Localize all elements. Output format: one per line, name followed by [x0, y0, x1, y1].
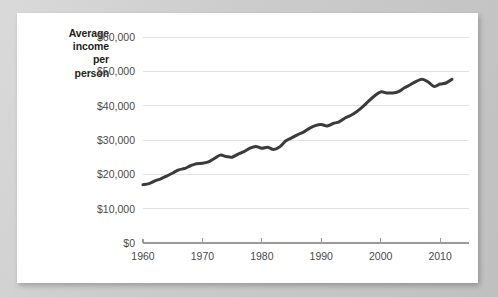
- x-axis-tick-label: 2010: [428, 250, 452, 262]
- x-axis-tickmarks: [202, 238, 440, 243]
- x-axis: [143, 239, 469, 243]
- x-axis-tick-label: 1960: [131, 250, 155, 262]
- y-axis-tick-label: $30,000: [97, 134, 135, 146]
- y-axis-tick-label: $20,000: [97, 168, 135, 180]
- y-axis-tick-label: $10,000: [97, 203, 135, 215]
- x-axis-tick-label: 2000: [369, 250, 393, 262]
- line-chart-plot: $60,000$50,000$40,000$30,000$20,000$10,0…: [17, 13, 478, 283]
- x-axis-tick-label: 1980: [250, 250, 274, 262]
- y-axis-tick-label: $50,000: [97, 65, 135, 77]
- y-axis-tick-label: $40,000: [97, 100, 135, 112]
- chart-card: Average income per person $60,000$50,000…: [17, 13, 478, 283]
- x-axis-tick-label: 1970: [191, 250, 215, 262]
- y-axis-tick-label: $60,000: [97, 31, 135, 43]
- x-axis-tick-label: 1990: [310, 250, 334, 262]
- x-axis-tick-labels: 196019701980199020002010: [131, 250, 452, 262]
- y-axis-tick-label: $0: [123, 237, 135, 249]
- y-axis-tick-labels: $60,000$50,000$40,000$30,000$20,000$10,0…: [97, 31, 135, 249]
- gridlines: [143, 37, 469, 209]
- income-line-series: [143, 79, 452, 184]
